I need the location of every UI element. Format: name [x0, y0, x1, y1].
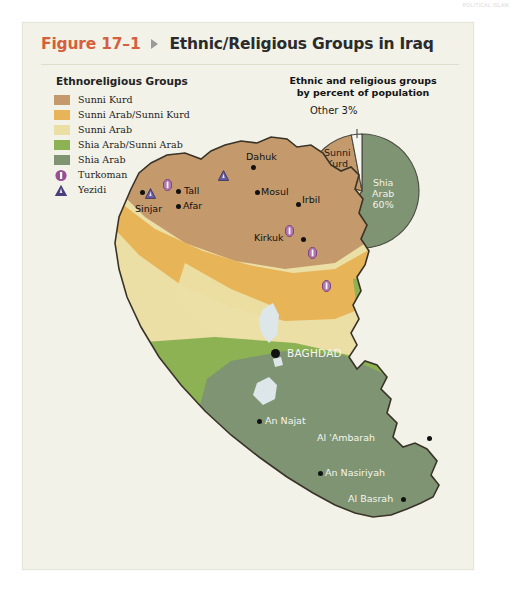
figure-title: Figure 17–1 Ethnic/Religious Groups in I… — [41, 35, 459, 59]
pie-title-line1: Ethnic and religious groups — [268, 75, 458, 87]
turkoman-circle-bar-icon — [322, 278, 331, 290]
turkoman-circle-bar-icon — [285, 223, 294, 235]
city-label: An Nasiriyah — [325, 467, 385, 478]
yezidi-triangle-icon — [218, 167, 229, 178]
title-divider — [41, 64, 459, 65]
city-marker — [176, 189, 181, 194]
city-marker — [401, 497, 406, 502]
city-marker — [140, 190, 145, 195]
figure-number: Figure 17–1 — [41, 35, 141, 53]
running-header: POLITICAL ISLAM — [463, 2, 509, 8]
triangle-right-icon — [151, 39, 158, 49]
city-label: Al 'Ambarah — [317, 432, 375, 443]
city-marker — [296, 202, 301, 207]
capital-label: BAGHDAD — [287, 347, 342, 359]
city-label: Dahuk — [246, 151, 277, 162]
yezidi-triangle-icon — [145, 185, 156, 196]
map-regions — [35, 93, 465, 561]
city-label: Afar — [183, 200, 202, 211]
turkoman-circle-bar-icon — [308, 245, 317, 257]
iraq-map: BAGHDADDahukTallAfarSinjarMosulIrbilKirk… — [35, 93, 465, 561]
city-label: Mosul — [261, 186, 289, 197]
region-shia-arab — [199, 351, 455, 541]
city-marker — [318, 471, 323, 476]
figure-container: Figure 17–1 Ethnic/Religious Groups in I… — [22, 22, 474, 570]
turkoman-circle-bar-icon — [163, 177, 172, 189]
city-marker — [257, 419, 262, 424]
city-marker — [301, 237, 306, 242]
city-label: Irbil — [302, 194, 320, 205]
city-label: An Najat — [265, 415, 306, 426]
city-label: Kirkuk — [254, 232, 284, 243]
city-label: Sinjar — [135, 203, 162, 214]
iraq-map-svg — [35, 93, 465, 561]
city-marker — [427, 436, 432, 441]
city-label: Al Basrah — [348, 493, 393, 504]
legend-title: Ethnoreligious Groups — [56, 75, 234, 87]
figure-caption: Ethnic/Religious Groups in Iraq — [169, 35, 433, 53]
capital-marker — [271, 349, 280, 358]
city-marker — [255, 190, 260, 195]
city-label: Tall — [184, 185, 199, 196]
city-marker — [176, 204, 181, 209]
city-marker — [251, 165, 256, 170]
